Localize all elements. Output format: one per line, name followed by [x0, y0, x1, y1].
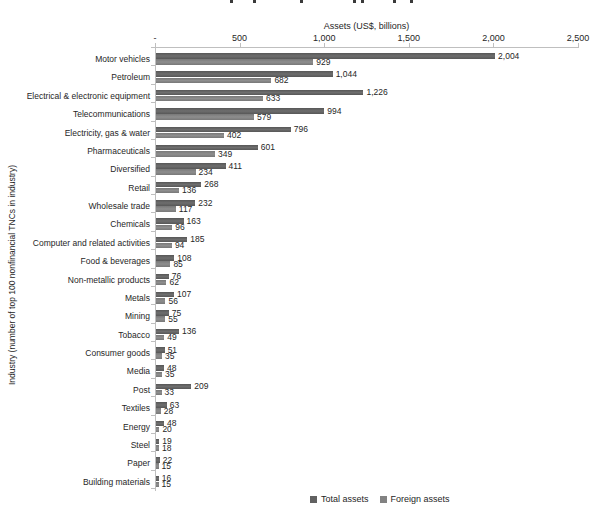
foreign-assets-bar — [156, 445, 159, 451]
total-assets-value: 163 — [187, 218, 201, 225]
foreign-assets-bar — [156, 427, 159, 433]
foreign-assets-bar — [156, 96, 263, 102]
cropped-title-fragment — [393, 0, 396, 3]
foreign-assets-bar — [156, 482, 159, 488]
x-tick-label: 500 — [232, 33, 247, 43]
cropped-title-fragment — [361, 0, 364, 3]
foreign-assets-value: 15 — [162, 463, 171, 470]
table-row: Computer and related activities18594 — [155, 234, 578, 252]
foreign-assets-value: 579 — [257, 114, 271, 121]
table-row: Media4835 — [155, 362, 578, 380]
table-row: Textiles6328 — [155, 399, 578, 417]
category-label: Electricity, gas & water — [20, 124, 150, 142]
total-assets-bar — [156, 310, 169, 316]
total-assets-value: 2,004 — [498, 53, 519, 60]
table-row: Mining7555 — [155, 307, 578, 325]
cropped-title-fragment — [230, 0, 233, 3]
total-assets-bar — [156, 127, 291, 133]
category-label: Electrical & electronic equipment — [20, 87, 150, 105]
legend-swatch-icon — [310, 496, 317, 503]
foreign-assets-bar — [156, 59, 313, 65]
table-row: Wholesale trade232117 — [155, 197, 578, 215]
foreign-assets-bar — [156, 280, 166, 286]
total-assets-bar — [156, 476, 159, 482]
total-assets-value: 232 — [198, 200, 212, 207]
foreign-assets-value: 35 — [165, 371, 174, 378]
foreign-assets-bar — [156, 353, 162, 359]
foreign-assets-value: 56 — [168, 298, 177, 305]
table-row: Diversified411234 — [155, 160, 578, 178]
foreign-assets-bar — [156, 261, 170, 267]
total-assets-bar — [156, 457, 160, 463]
total-assets-value: 107 — [177, 291, 191, 298]
foreign-assets-value: 28 — [164, 408, 173, 415]
total-assets-value: 268 — [204, 181, 218, 188]
foreign-assets-value: 234 — [199, 169, 213, 176]
y-axis-title: Industry (number of top 100 nonfinancial… — [7, 105, 17, 445]
foreign-assets-bar — [156, 188, 179, 194]
foreign-assets-value: 94 — [175, 242, 184, 249]
total-assets-bar — [156, 71, 333, 77]
total-assets-value: 796 — [294, 126, 308, 133]
x-axis-title: Assets (US$, billions) — [155, 21, 578, 31]
foreign-assets-value: 929 — [316, 59, 330, 66]
category-label: Textiles — [20, 399, 150, 417]
foreign-assets-value: 62 — [169, 279, 178, 286]
foreign-assets-bar — [156, 408, 161, 414]
legend: Total assetsForeign assets — [310, 494, 450, 504]
total-assets-value: 136 — [182, 328, 196, 335]
table-row: Tobacco13649 — [155, 326, 578, 344]
category-label: Telecommunications — [20, 105, 150, 123]
total-assets-bar — [156, 163, 226, 169]
table-row: Metals10756 — [155, 289, 578, 307]
cropped-title-fragment — [253, 0, 256, 3]
category-label: Non-metallic products — [20, 271, 150, 289]
table-row: Chemicals16396 — [155, 215, 578, 233]
table-row: Food & beverages10885 — [155, 252, 578, 270]
category-label: Pharmaceuticals — [20, 142, 150, 160]
table-row: Petroleum1,044682 — [155, 68, 578, 86]
foreign-assets-bar — [156, 372, 162, 378]
foreign-assets-bar — [156, 206, 176, 212]
table-row: Steel1918 — [155, 436, 578, 454]
category-label: Energy — [20, 418, 150, 436]
x-axis-line — [155, 47, 579, 48]
category-label: Post — [20, 381, 150, 399]
category-label: Steel — [20, 436, 150, 454]
foreign-assets-value: 49 — [167, 334, 176, 341]
bar-chart-figure: Assets (US$, billions) Industry (number … — [0, 0, 606, 518]
category-label: Paper — [20, 454, 150, 472]
foreign-assets-bar — [156, 225, 172, 231]
table-row: Electrical & electronic equipment1,22663… — [155, 87, 578, 105]
total-assets-bar — [156, 347, 165, 353]
cropped-title-fragment — [410, 0, 413, 3]
category-label: Tobacco — [20, 326, 150, 344]
foreign-assets-value: 633 — [266, 95, 280, 102]
total-assets-bar — [156, 145, 258, 151]
total-assets-bar — [156, 439, 159, 445]
total-assets-value: 994 — [327, 108, 341, 115]
legend-item: Foreign assets — [380, 494, 450, 504]
table-row: Motor vehicles2,004929 — [155, 50, 578, 68]
foreign-assets-value: 35 — [165, 353, 174, 360]
foreign-assets-value: 117 — [179, 206, 193, 213]
category-label: Chemicals — [20, 215, 150, 233]
x-tick-label: 1,500 — [398, 33, 421, 43]
category-label: Motor vehicles — [20, 50, 150, 68]
category-label: Metals — [20, 289, 150, 307]
category-label: Media — [20, 362, 150, 380]
category-label: Retail — [20, 179, 150, 197]
foreign-assets-bar — [156, 243, 172, 249]
total-assets-value: 185 — [190, 236, 204, 243]
plot-area: Motor vehicles2,004929Petroleum1,044682E… — [155, 50, 578, 491]
total-assets-value: 1,044 — [336, 71, 357, 78]
foreign-assets-value: 15 — [162, 481, 171, 488]
cropped-title-fragment — [353, 0, 356, 3]
foreign-assets-bar — [156, 151, 215, 157]
total-assets-value: 411 — [229, 163, 243, 170]
legend-item: Total assets — [310, 494, 369, 504]
category-label: Petroleum — [20, 68, 150, 86]
category-label: Computer and related activities — [20, 234, 150, 252]
legend-label: Total assets — [321, 494, 369, 504]
category-label: Food & beverages — [20, 252, 150, 270]
